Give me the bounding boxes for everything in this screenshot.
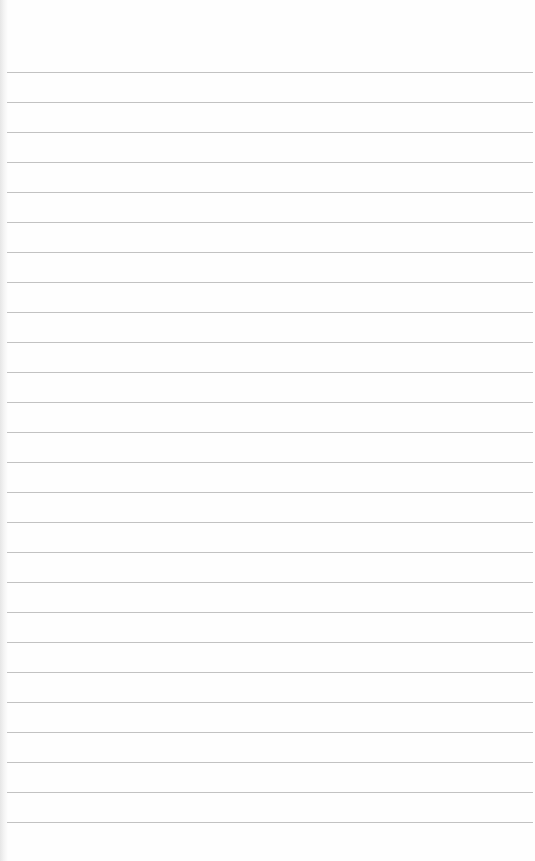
ruled-line (7, 462, 533, 463)
ruled-line (7, 72, 533, 73)
ruled-line (7, 732, 533, 733)
ruled-line (7, 342, 533, 343)
ruled-line (7, 312, 533, 313)
ruled-line (7, 702, 533, 703)
ruled-line (7, 672, 533, 673)
ruled-line (7, 402, 533, 403)
ruled-line (7, 102, 533, 103)
ruled-line (7, 822, 533, 823)
ruled-line (7, 282, 533, 283)
ruled-line (7, 612, 533, 613)
ruled-line (7, 252, 533, 253)
ruled-line (7, 132, 533, 133)
ruled-line (7, 642, 533, 643)
notepad-page (0, 0, 535, 861)
ruled-line (7, 522, 533, 523)
ruled-line (7, 192, 533, 193)
ruled-line (7, 762, 533, 763)
ruled-line (7, 492, 533, 493)
ruled-line (7, 792, 533, 793)
ruled-line (7, 582, 533, 583)
ruled-line (7, 222, 533, 223)
ruled-line (7, 162, 533, 163)
ruled-line (7, 432, 533, 433)
ruled-line (7, 372, 533, 373)
ruled-line (7, 552, 533, 553)
